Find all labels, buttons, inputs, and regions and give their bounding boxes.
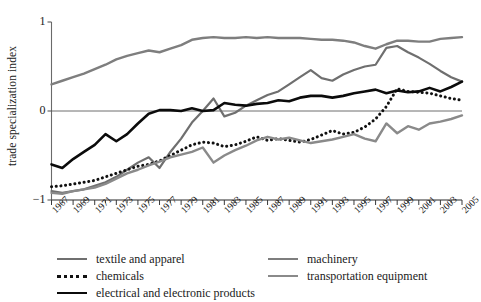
legend-item-machinery[interactable]: machinery [268, 253, 358, 265]
legend-swatch-solid-line-icon [268, 275, 298, 277]
legend-item-electrical-and-electronic-products[interactable]: electrical and electronic products [57, 287, 255, 299]
legend-item-transportation-equipment[interactable]: transportation equipment [268, 270, 427, 282]
legend-label: transportation equipment [307, 270, 427, 282]
series-line-transportation-equipment [52, 115, 463, 193]
legend-swatch-solid-line-icon [57, 258, 87, 260]
legend-item-textile-and-apparel[interactable]: textile and apparel [57, 253, 185, 265]
legend-label: electrical and electronic products [96, 287, 255, 299]
legend-swatch-dotted-line-icon [57, 275, 87, 278]
legend-swatch-solid-line-icon [268, 258, 298, 260]
legend-swatch-solid-line-icon [57, 292, 87, 294]
series-line-textile-and-apparel [52, 46, 463, 193]
legend-item-chemicals[interactable]: chemicals [57, 270, 144, 282]
series-line-electrical-and-electronic-products [52, 82, 463, 168]
legend-label: chemicals [96, 270, 144, 282]
series-line-machinery [52, 37, 463, 84]
legend-label: textile and apparel [96, 253, 185, 265]
legend-label: machinery [307, 253, 358, 265]
